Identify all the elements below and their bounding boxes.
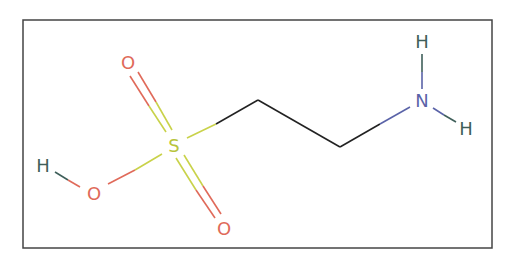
bond-s-c-half [216,100,258,124]
bond-s-o-top-1 [130,76,149,106]
atom-hydrogen-oh: H [36,155,50,176]
bonds [55,54,456,218]
atom-hydrogen-n-top: H [415,31,429,52]
atom-oxygen-bottom: O [217,218,231,239]
atom-labels: H O S O O N H H [36,31,473,239]
atom-sulfur: S [168,135,179,156]
bond-s-o-bottom-1 [176,158,196,190]
bond-c-n-half [380,107,410,124]
atom-oxygen-top: O [121,52,135,73]
bond-s-o-bottom-1b [196,190,215,218]
bond-o-s-half [135,154,162,170]
bond-s-o-top-2b [156,102,172,130]
bond-o-s [108,170,135,184]
bond-s-o-bottom-2b [203,186,221,214]
bond-c-c [258,100,340,147]
bond-h-o-half [68,180,80,187]
bond-n-h-right-half [444,115,456,122]
bond-h-o [55,172,68,180]
bond-s-o-top-2 [138,72,156,102]
atom-nitrogen: N [415,90,428,111]
bond-s-c [187,124,216,138]
taurine-structure-diagram: H O S O O N H H [0,0,509,257]
bond-n-h-right [433,108,444,115]
atom-oxygen-oh: O [87,183,101,204]
atom-hydrogen-n-right: H [459,118,473,139]
bond-s-o-bottom-2 [184,155,203,186]
bond-c-n [340,124,380,147]
bond-s-o-top-1b [149,106,166,132]
